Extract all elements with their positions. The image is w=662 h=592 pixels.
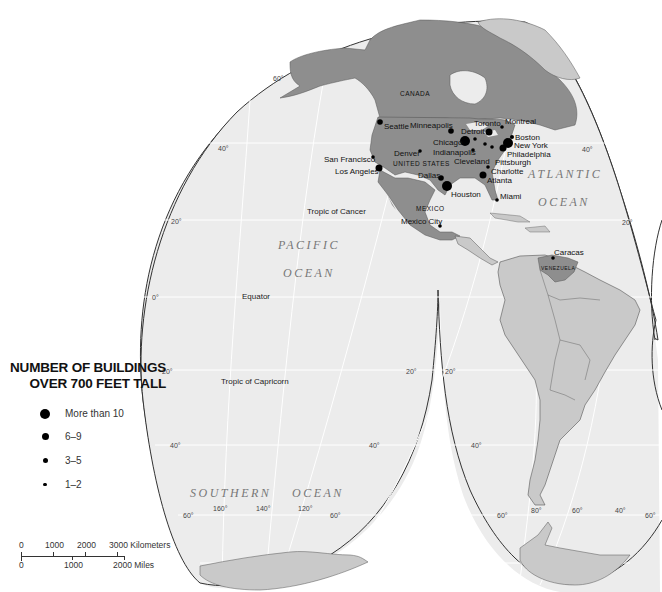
svg-text:Toronto: Toronto	[474, 119, 501, 128]
legend-label: More than 10	[65, 408, 124, 419]
svg-text:40°: 40°	[170, 442, 181, 449]
scale-mi-0: 0	[19, 560, 24, 570]
dot-medium-icon	[42, 433, 49, 440]
city-los-angeles[interactable]: Los Angeles	[335, 165, 383, 177]
city-indianapolis[interactable]: Indianapolis	[433, 148, 476, 157]
svg-text:Seattle: Seattle	[384, 122, 409, 131]
svg-text:Denver: Denver	[394, 149, 420, 158]
scale-bar: 0 1000 2000 3000 Kilometers 0 1000 2000 …	[0, 540, 200, 580]
svg-text:60°: 60°	[330, 512, 341, 519]
svg-text:New York: New York	[514, 141, 549, 150]
svg-text:40°: 40°	[218, 145, 229, 152]
canada-label: CANADA	[400, 90, 430, 97]
legend-title-line2: OVER 700 FEET TALL	[0, 376, 170, 392]
svg-text:Charlotte: Charlotte	[491, 167, 524, 176]
southern-ocean-label-2: OCEAN	[292, 486, 344, 500]
svg-text:40°: 40°	[369, 442, 380, 449]
legend: NUMBER OF BUILDINGS OVER 700 FEET TALL M…	[0, 360, 170, 392]
svg-text:40°: 40°	[615, 507, 626, 514]
scale-km-1000: 1000	[45, 540, 64, 550]
pacific-ocean-label-2: OCEAN	[283, 266, 335, 280]
pacific-ocean-label-1: PACIFIC	[277, 238, 340, 252]
svg-text:60°: 60°	[572, 507, 583, 514]
svg-text:San Francisco: San Francisco	[324, 155, 376, 164]
svg-text:Dallas: Dallas	[418, 171, 440, 180]
svg-text:Cleveland: Cleveland	[454, 157, 490, 166]
city-dallas[interactable]: Dallas	[418, 171, 444, 181]
svg-text:Pittsburgh: Pittsburgh	[495, 158, 531, 167]
legend-item-6-9: 6–9	[38, 431, 82, 442]
svg-text:20°: 20°	[171, 218, 182, 225]
usa-label: UNITED STATES	[393, 160, 450, 167]
svg-text:Atlanta: Atlanta	[487, 176, 512, 185]
scale-km-2000: 2000	[77, 540, 96, 550]
interrupted-map: 60° 40° 20° 0° 20° 40° 60° 160° 140° 120…	[0, 0, 662, 592]
svg-text:60°: 60°	[273, 75, 284, 82]
city-denver[interactable]: Denver	[394, 149, 422, 158]
svg-text:60°: 60°	[497, 512, 508, 519]
svg-text:80°: 80°	[531, 507, 542, 514]
svg-text:Minneapolis: Minneapolis	[410, 121, 453, 130]
svg-text:60°: 60°	[183, 512, 194, 519]
legend-item-1-2: 1–2	[38, 479, 82, 490]
venezuela-label: VENEZUELA	[541, 265, 575, 271]
tropic-of-cancer-label: Tropic of Cancer	[307, 207, 366, 216]
svg-text:20°: 20°	[406, 368, 417, 375]
legend-label: 6–9	[65, 431, 82, 442]
svg-text:140°: 140°	[256, 505, 271, 512]
svg-text:Indianapolis: Indianapolis	[433, 148, 476, 157]
svg-text:160°: 160°	[213, 505, 228, 512]
legend-label: 3–5	[65, 455, 82, 466]
scale-mi-1000: 1000	[64, 560, 83, 570]
svg-text:60°: 60°	[645, 512, 656, 519]
legend-item-more-than-10: More than 10	[38, 408, 124, 419]
svg-text:Mexico City: Mexico City	[401, 217, 442, 226]
scale-km-3000: 3000 Kilometers	[109, 540, 170, 550]
svg-text:Caracas: Caracas	[554, 248, 584, 257]
svg-text:20°: 20°	[622, 219, 633, 226]
svg-text:120°: 120°	[298, 505, 313, 512]
svg-text:Detroit: Detroit	[461, 127, 485, 136]
dot-large-icon	[40, 409, 50, 419]
legend-title-line1: NUMBER OF BUILDINGS	[0, 360, 170, 376]
svg-text:0°: 0°	[152, 294, 159, 301]
svg-text:Los Angeles: Los Angeles	[335, 167, 379, 176]
svg-text:Chicago: Chicago	[433, 138, 463, 147]
svg-text:40°: 40°	[582, 146, 593, 153]
svg-text:Miami: Miami	[500, 192, 522, 201]
city-miami[interactable]: Miami	[495, 192, 521, 202]
scale-mi-2000: 2000 Miles	[113, 560, 154, 570]
atlantic-ocean-label-2: OCEAN	[538, 195, 590, 209]
dot-small-icon	[43, 458, 48, 463]
svg-text:Montreal: Montreal	[505, 117, 536, 126]
city-san-francisco[interactable]: San Francisco	[324, 155, 376, 164]
southern-ocean-label-1: SOUTHERN	[190, 486, 271, 500]
tropic-of-capricorn-label: Tropic of Capricorn	[221, 377, 289, 386]
dot-tiny-icon	[43, 483, 47, 487]
equator-label: Equator	[242, 292, 270, 301]
legend-item-3-5: 3–5	[38, 455, 82, 466]
city-charlotte[interactable]: Charlotte	[486, 165, 524, 176]
city-chicago[interactable]: Chicago	[433, 136, 470, 147]
scale-line	[21, 556, 125, 557]
mexico-label: MEXICO	[416, 205, 445, 212]
atlantic-ocean-label-1: ATLANTIC	[527, 167, 602, 181]
legend-label: 1–2	[65, 479, 82, 490]
svg-text:40°: 40°	[471, 442, 482, 449]
scale-km-0: 0	[19, 540, 24, 550]
svg-text:20°: 20°	[445, 368, 456, 375]
svg-text:Houston: Houston	[451, 190, 481, 199]
